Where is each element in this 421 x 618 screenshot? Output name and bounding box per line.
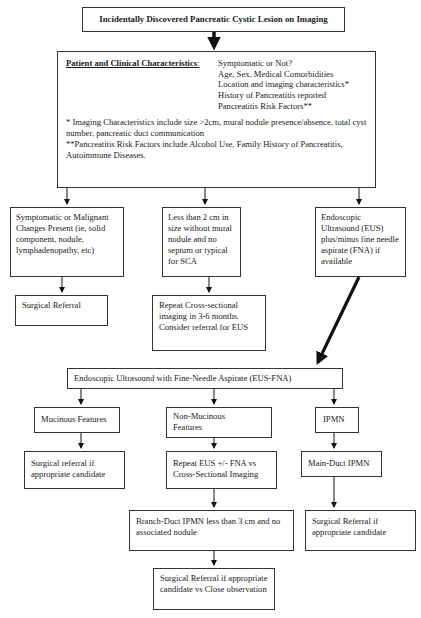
repeat-eus-box: Repeat EUS +/- FNA vs Cross-Sectional Im…: [166, 451, 277, 489]
characteristic-item: Symptomatic or Not?: [218, 58, 349, 69]
main-duct-box: Main-Duct IPMN: [301, 451, 382, 477]
ipmn-text: IPMN: [323, 414, 345, 424]
branch-duct-box: Branch-Duct IPMN less than 3 cm and no a…: [129, 510, 294, 551]
characteristics-box: Patient and Clinical Characteristics: Sy…: [57, 51, 376, 188]
eus-fna-text: Endoscopic Ultrasound with Fine-Needle A…: [74, 373, 291, 383]
ipmn-box: IPMN: [315, 407, 359, 433]
mucinous-text: Mucinous Features: [41, 414, 107, 424]
characteristics-notes: * Imaging Characteristics include size >…: [66, 117, 369, 161]
main-duct-text: Main-Duct IPMN: [308, 458, 369, 468]
repeat-imaging-box: Repeat Cross-sectional imaging in 3-6 mo…: [152, 295, 266, 351]
small-cyst-text: Less than 2 cm in size without mural nod…: [168, 212, 232, 266]
characteristic-item: Age, Sex, Medical Comorbidities: [218, 69, 349, 80]
imaging-note: * Imaging Characteristics include size >…: [66, 117, 369, 139]
characteristic-item: Pancreatitis Risk Factors**: [218, 101, 349, 112]
branch-duct-text: Branch-Duct IPMN less than 3 cm and no a…: [136, 516, 280, 537]
characteristics-heading: Patient and Clinical Characteristics:: [66, 58, 199, 69]
characteristic-item: Location and imaging characteristics*: [218, 79, 349, 90]
symptomatic-text: Symptomatic or Malignant Changes Present…: [16, 212, 109, 255]
mucinous-surgical-text: Surgical referral if appropriate candida…: [31, 458, 105, 479]
title-box: Incidentally Discovered Pancreatic Cysti…: [82, 7, 345, 32]
final-decision-box: Surgical Referral if appropriate candida…: [153, 568, 275, 610]
symptomatic-box: Symptomatic or Malignant Changes Present…: [10, 207, 124, 277]
non-mucinous-box: Non-Mucinous Features: [166, 407, 272, 438]
small-cyst-box: Less than 2 cm in size without mural nod…: [162, 207, 241, 277]
characteristic-item: History of Pancreatitis reported: [218, 90, 349, 101]
mucinous-surgical-box: Surgical referral if appropriate candida…: [24, 451, 125, 489]
mucinous-box: Mucinous Features: [34, 407, 120, 433]
surgical-referral-text: Surgical Referral: [22, 300, 81, 310]
ipmn-surgical-box: Surgical Referral if appropriate candida…: [305, 510, 416, 551]
risk-factor-note: **Pancreatitis Risk Factors include Alco…: [66, 139, 369, 161]
non-mucinous-text: Non-Mucinous Features: [173, 411, 243, 433]
eus-box: Endoscopic Ultrasound (EUS) plus/minus f…: [315, 207, 406, 277]
final-decision-text: Surgical Referral if appropriate candida…: [160, 573, 267, 594]
repeat-imaging-text: Repeat Cross-sectional imaging in 3-6 mo…: [159, 300, 248, 332]
title-text: Incidentally Discovered Pancreatic Cysti…: [99, 14, 327, 24]
eus-fna-box: Endoscopic Ultrasound with Fine-Needle A…: [67, 368, 343, 389]
characteristics-list: Symptomatic or Not? Age, Sex, Medical Co…: [218, 58, 349, 112]
repeat-eus-text: Repeat EUS +/- FNA vs Cross-Sectional Im…: [173, 458, 258, 479]
ipmn-surgical-text: Surgical Referral if appropriate candida…: [312, 516, 386, 537]
eus-text: Endoscopic Ultrasound (EUS) plus/minus f…: [321, 212, 399, 266]
surgical-referral-box: Surgical Referral: [15, 295, 108, 326]
